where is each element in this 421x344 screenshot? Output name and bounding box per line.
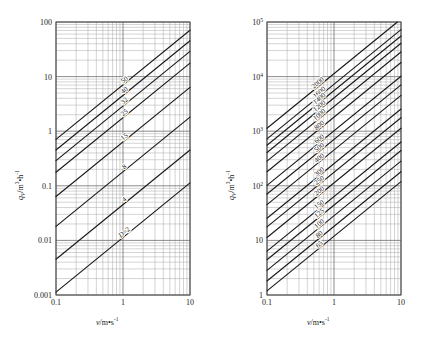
y-tick-label: 105: [252, 17, 263, 27]
left-chart-svg: 505040403232252515158844D=2D=20.11100.00…: [0, 0, 210, 344]
curve-label-50: 50: [119, 74, 130, 85]
y-tick-label: 0.001: [34, 291, 52, 300]
y-tick-label: 1: [48, 127, 52, 136]
left-y-axis-label: qV/m3•h-1: [14, 170, 26, 200]
right-ylabel-rest: /m: [227, 184, 236, 192]
y-tick-label: 0.1: [42, 182, 52, 191]
right-chart-svg: 2000200016001600140014001200120010001000…: [211, 0, 421, 344]
left-xlabel-text: /m•s: [100, 318, 114, 327]
right-ylabel-sup1: 3: [225, 182, 231, 185]
y-tick-label: 100: [40, 18, 52, 27]
curve-2000: [267, 22, 397, 128]
x-tick-label: 0.1: [51, 298, 61, 307]
x-tick-label: 0.1: [262, 298, 272, 307]
x-tick-label: 10: [397, 298, 405, 307]
left-ylabel-q: q: [16, 196, 25, 200]
right-x-axis-label: v/m•s-1: [307, 316, 329, 327]
right-ylabel-sub: V: [231, 193, 237, 196]
curve-label-100: 100: [313, 217, 327, 230]
curve-label-400: 400: [313, 151, 327, 164]
y-tick-label: 103: [252, 126, 263, 136]
y-tick-label: 104: [252, 72, 263, 82]
right-ylabel-q: q: [227, 196, 236, 200]
y-tick-label: 10: [255, 236, 263, 245]
curve-label-4: 4: [121, 195, 129, 204]
chart-panel-left: 505040403232252515158844D=2D=20.11100.00…: [0, 0, 210, 344]
x-tick-label: 1: [332, 298, 336, 307]
chart-panel-right: 2000200016001600140014001200120010001000…: [211, 0, 421, 344]
left-x-axis-label: vv/m•s/m•s-1: [96, 316, 118, 327]
left-ylabel-sup2: -1: [14, 170, 20, 175]
curve-label-15: 15: [119, 131, 130, 142]
x-tick-label: 1: [121, 298, 125, 307]
right-ylabel-mid: •h: [227, 175, 236, 182]
left-ylabel-rest: /m: [16, 184, 25, 192]
right-xlabel-text: /m•s: [311, 318, 325, 327]
left-ylabel-sup1: 3: [14, 182, 20, 185]
curve-label-D2: D=2: [116, 225, 132, 240]
x-tick-label: 10: [186, 298, 194, 307]
curve-label-200: 200: [313, 184, 327, 197]
y-tick-label: 10: [44, 73, 52, 82]
right-ylabel-sup2: -1: [225, 170, 231, 175]
curve-label-8: 8: [121, 162, 129, 171]
right-y-axis-label: qV/m3•h-1: [225, 170, 237, 200]
y-tick-label: 102: [252, 181, 263, 191]
right-xlabel-sup: -1: [325, 316, 330, 322]
figure-root: 505040403232252515158844D=2D=20.11100.00…: [0, 0, 421, 344]
y-tick-label: 0.01: [38, 236, 52, 245]
left-ylabel-sub: V: [20, 193, 26, 196]
left-ylabel-mid: •h: [16, 175, 25, 182]
y-tick-label: 1: [259, 291, 263, 300]
left-xlabel-sup: -1: [114, 316, 119, 322]
curve-label-25: 25: [119, 107, 130, 118]
